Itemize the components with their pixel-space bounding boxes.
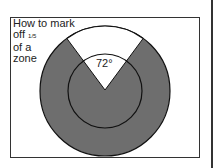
angle-label: 72° [96,57,113,69]
caption: How to mark off 1/5 of a zone [13,18,75,64]
fraction: 1/5 [28,33,36,39]
caption-line-4: zone [13,53,75,64]
